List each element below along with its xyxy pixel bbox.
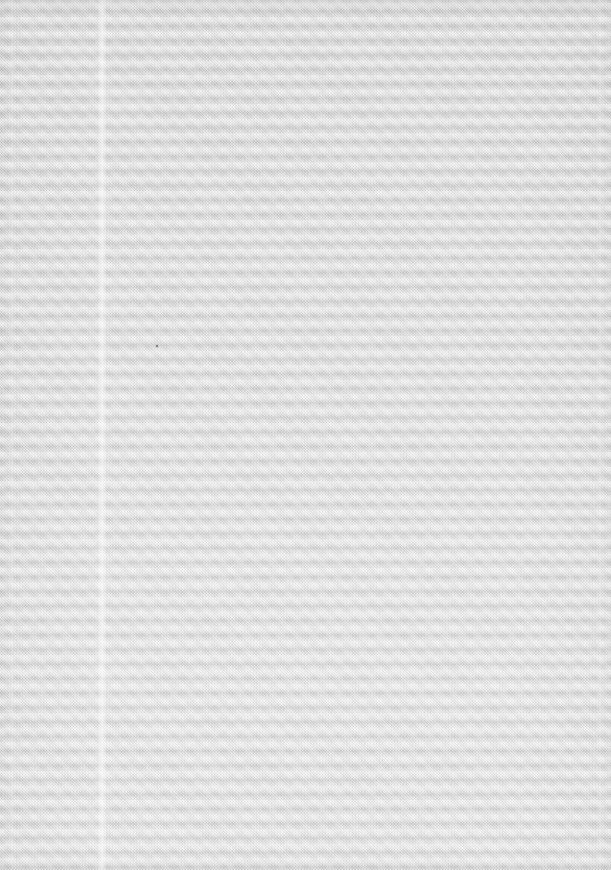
scanned-page	[0, 0, 611, 870]
page-text-content	[0, 0, 611, 870]
